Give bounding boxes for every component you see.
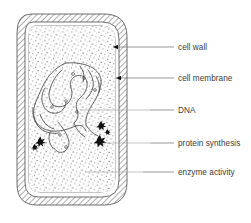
label-text-dna: DNA	[178, 106, 196, 115]
label-text-enzyme-activity: enzyme activity	[178, 168, 236, 177]
label-text-cell-membrane: cell membrane	[178, 74, 233, 83]
diagram-page: cell wall cell membrane DNA protein synt…	[0, 0, 251, 223]
bacterial-cell-diagram: cell wall cell membrane DNA protein synt…	[0, 0, 251, 223]
label-text-protein-synthesis: protein synthesis	[178, 139, 240, 148]
label-text-cell-wall: cell wall	[178, 43, 207, 52]
